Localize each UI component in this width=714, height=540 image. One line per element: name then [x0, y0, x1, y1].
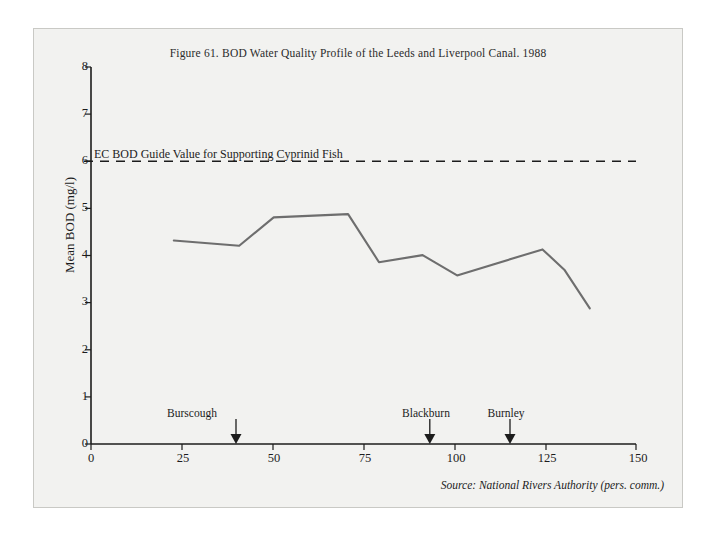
chart-svg: [34, 29, 684, 509]
figure-frame: Figure 61. BOD Water Quality Profile of …: [33, 28, 683, 508]
chart-plot-area: Mean BOD (mg/l) 8 7 6 5 4 3 2 1 0 0 25 5…: [34, 29, 684, 509]
data-series-mean-bod: [174, 214, 590, 308]
y-axis-ticks: [85, 67, 91, 444]
annotation-arrow-blackburn: [424, 419, 435, 444]
annotation-arrow-burscough: [231, 419, 242, 444]
source-note: Source: National Rivers Authority (pers.…: [441, 479, 664, 491]
x-axis-ticks: [91, 444, 636, 450]
figure-page: Figure 61. BOD Water Quality Profile of …: [0, 0, 714, 540]
annotation-arrow-burnley: [505, 419, 516, 444]
